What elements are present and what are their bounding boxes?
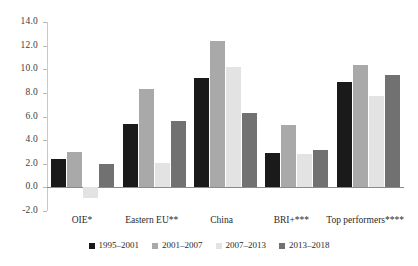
bar[interactable] [281, 125, 296, 188]
bar[interactable] [210, 41, 225, 187]
y-tick-label: 6.0 [26, 112, 38, 122]
legend-item[interactable]: 2001–2007 [152, 241, 203, 250]
bar[interactable] [226, 67, 241, 187]
bar-slot [171, 22, 186, 211]
legend-item[interactable]: 2007–2013 [216, 241, 267, 250]
y-tick-label: 2.0 [26, 159, 38, 169]
bar-slot [123, 22, 138, 211]
bar-slot [99, 22, 114, 211]
bar-group [333, 22, 404, 211]
bar-group-bars [261, 22, 332, 211]
y-tick-label: 0.0 [26, 183, 38, 193]
bar[interactable] [297, 154, 312, 187]
bar[interactable] [83, 187, 98, 198]
bar-group [47, 22, 118, 211]
bar-slot [265, 22, 280, 211]
y-tick-mark [43, 69, 47, 70]
legend: 1995–20012001–20072007–20132013–2018 [0, 241, 418, 250]
bar-slot [242, 22, 257, 211]
y-tick-label: 8.0 [26, 88, 38, 98]
category-label: China [187, 216, 257, 234]
bar[interactable] [194, 78, 209, 188]
legend-label: 1995–2001 [99, 241, 140, 250]
bar-chart: 14.012.010.08.06.04.02.00.0-2.0 OIE*East… [0, 0, 418, 266]
bar-group-bars [118, 22, 189, 211]
bar-slot [313, 22, 328, 211]
y-tick-mark [43, 164, 47, 165]
bar-slot [337, 22, 352, 211]
bar[interactable] [139, 89, 154, 187]
y-tick-label: 14.0 [21, 17, 38, 27]
legend-item[interactable]: 1995–2001 [89, 241, 140, 250]
bar[interactable] [123, 124, 138, 188]
bar[interactable] [313, 150, 328, 188]
bar[interactable] [155, 163, 170, 188]
legend-swatch-icon [216, 243, 222, 249]
y-tick-label: 4.0 [26, 135, 38, 145]
category-label: Top performers**** [326, 216, 404, 234]
legend-swatch-icon [279, 243, 285, 249]
bar-slot [67, 22, 82, 211]
bar[interactable] [242, 113, 257, 187]
category-label: Eastern EU** [117, 216, 187, 234]
y-tick-mark [43, 187, 47, 188]
plot-area [47, 22, 404, 211]
bar-slot [155, 22, 170, 211]
bar-group [261, 22, 332, 211]
y-tick-mark [43, 117, 47, 118]
bar-slot [226, 22, 241, 211]
bar-slot [353, 22, 368, 211]
legend-item[interactable]: 2013–2018 [279, 241, 330, 250]
bar-slot [385, 22, 400, 211]
y-tick-label: -2.0 [22, 206, 38, 216]
y-tick-mark [43, 140, 47, 141]
legend-swatch-icon [89, 243, 95, 249]
bar[interactable] [353, 65, 368, 188]
bar-group-bars [47, 22, 118, 211]
y-tick-mark [43, 93, 47, 94]
y-tick-label: 10.0 [21, 65, 38, 75]
bar-slot [51, 22, 66, 211]
bar[interactable] [337, 82, 352, 187]
bar-slot [210, 22, 225, 211]
y-tick-mark [43, 22, 47, 23]
category-axis: OIE*Eastern EU**ChinaBRI+***Top performe… [47, 216, 404, 234]
category-label: BRI+*** [256, 216, 326, 234]
category-label: OIE* [47, 216, 117, 234]
bar[interactable] [385, 75, 400, 187]
y-tick-mark [43, 46, 47, 47]
bar-slot [194, 22, 209, 211]
bar-group-bars [333, 22, 404, 211]
bar-slot [369, 22, 384, 211]
bar[interactable] [67, 152, 82, 187]
y-axis: 14.012.010.08.06.04.02.00.0-2.0 [0, 22, 43, 211]
bar-group [190, 22, 261, 211]
bar[interactable] [369, 96, 384, 187]
y-tick-mark [43, 211, 47, 212]
bar-group-bars [190, 22, 261, 211]
bar[interactable] [171, 121, 186, 187]
bar-slot [139, 22, 154, 211]
y-tick-label: 12.0 [21, 41, 38, 51]
bar-slot [281, 22, 296, 211]
legend-label: 2013–2018 [289, 241, 330, 250]
bar-slot [83, 22, 98, 211]
bar-group [118, 22, 189, 211]
legend-label: 2001–2007 [162, 241, 203, 250]
bar[interactable] [265, 153, 280, 187]
legend-swatch-icon [152, 243, 158, 249]
legend-label: 2007–2013 [226, 241, 267, 250]
bar[interactable] [99, 164, 114, 188]
bar[interactable] [51, 159, 66, 187]
bar-slot [297, 22, 312, 211]
